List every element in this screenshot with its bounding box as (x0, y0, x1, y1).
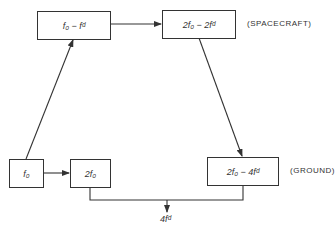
box-f0: f₀ (9, 159, 44, 188)
box-f0-minus-fd: f₀ − fᵈ (37, 11, 111, 40)
output-4fd: 4fᵈ (160, 214, 171, 224)
box-label: 2f₀ − 4fᵈ (227, 167, 260, 177)
box-label: 2f₀ − 2fᵈ (183, 20, 216, 30)
box-2f0-minus-2fd: 2f₀ − 2fᵈ (162, 10, 236, 39)
arrow-spacecraft-to-ground (199, 38, 242, 156)
box-label: 2f₀ (85, 169, 96, 179)
box-2f0-minus-4fd: 2f₀ − 4fᵈ (207, 157, 279, 186)
box-label: f₀ (23, 169, 29, 179)
box-2f0: 2f₀ (70, 159, 111, 188)
arrow-f0-to-f0-minus-fd (26, 40, 73, 159)
box-label: f₀ − fᵈ (63, 21, 86, 31)
label-ground: (GROUND) (290, 166, 335, 175)
combiner-line (90, 185, 243, 200)
label-spacecraft: (SPACECRAFT) (247, 19, 312, 28)
